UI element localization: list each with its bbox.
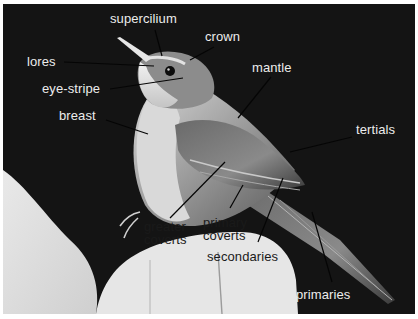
eye-shape (165, 66, 175, 76)
eye-highlight (167, 68, 169, 70)
label-mantle: mantle (252, 61, 292, 74)
leader-line-crown (190, 47, 214, 60)
label-eye-stripe: eye-stripe (42, 82, 100, 95)
label-breast: breast (59, 109, 96, 122)
bird-feet (120, 212, 140, 238)
hand-left-shape (3, 170, 97, 314)
label-lores: lores (27, 55, 56, 68)
label-crown: crown (205, 30, 240, 43)
hand-fingers-shape (96, 232, 298, 314)
beak-shape (117, 37, 152, 62)
label-secondaries: secondaries (207, 250, 278, 263)
bird-illustration (3, 4, 415, 314)
figure-frame: supercilium crown lores mantle eye-strip… (0, 0, 418, 319)
label-supercilium: supercilium (110, 12, 177, 25)
leader-line-supercilium (155, 30, 162, 56)
leader-line-mantle (238, 77, 271, 118)
label-greater-coverts: greater coverts (144, 220, 187, 246)
bird-photograph: supercilium crown lores mantle eye-strip… (3, 4, 415, 314)
label-primary-coverts: primary coverts (203, 216, 247, 242)
label-tertials: tertials (356, 123, 395, 136)
label-greater-coverts-line2: coverts (144, 233, 187, 246)
leader-line-tertials (290, 137, 352, 152)
label-primary-coverts-line2: coverts (203, 229, 247, 242)
label-primaries: primaries (296, 288, 350, 301)
